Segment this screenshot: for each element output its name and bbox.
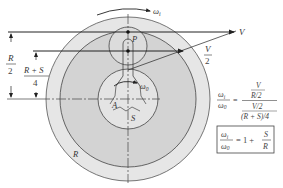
label-V-half-den: 2: [205, 56, 210, 66]
dim-RS4-num: R + S: [23, 65, 44, 75]
eq2-lhs-den: ω0: [221, 142, 230, 151]
eq1-rhs-bot-den: (R + S)/4: [241, 112, 269, 121]
omega-i-arrow: [97, 9, 150, 15]
equation-ratio-result: ωi ω0 = 1 + S R: [217, 126, 274, 153]
label-omega-i: ωi: [153, 6, 161, 17]
label-P: P: [131, 34, 137, 44]
eq1-rhs-top-den: R/2: [250, 91, 262, 100]
equation-ratio-derivation: ωi ω0 = V R/2 V/2 (R + S)/4: [217, 81, 277, 121]
label-V-half-num: V: [205, 44, 212, 54]
label-R: R: [72, 149, 79, 159]
eq2-frac-num: S: [264, 130, 268, 139]
dim-R-half-num: R: [7, 53, 14, 63]
planet-top-point: [126, 30, 130, 34]
label-A: A: [111, 100, 118, 110]
eq1-rhs-top-num: V: [256, 81, 262, 90]
dim-RS4-den: 4: [33, 78, 38, 88]
label-V: V: [239, 27, 246, 37]
eq1-equals: =: [233, 96, 238, 105]
eq2-rhs: = 1 +: [236, 135, 254, 145]
dim-R-half-den: 2: [8, 66, 13, 76]
eq1-rhs-bot-num: V/2: [252, 102, 263, 111]
eq2-frac-den: R: [262, 142, 268, 151]
planetary-gear-diagram: R 2 R + S 4 ωi V V 2 P ω0 A S R ωi ω0 = …: [0, 0, 283, 188]
eq2-lhs-num: ωi: [221, 130, 229, 140]
eq1-lhs-num: ωi: [218, 90, 226, 100]
eq1-lhs-den: ω0: [218, 101, 227, 110]
planet-center-point: [126, 49, 130, 53]
